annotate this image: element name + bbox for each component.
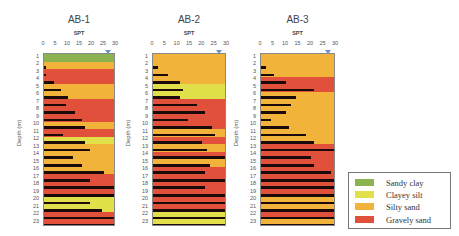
y-tick-label: 7 xyxy=(136,98,148,104)
x-tick-label: 25 xyxy=(319,40,325,46)
y-tick-label: 11 xyxy=(136,128,148,134)
x-tick-label: 15 xyxy=(76,40,82,46)
x-tick-label: 10 xyxy=(64,40,70,46)
y-tick-label: 16 xyxy=(27,165,39,171)
y-tick-label: 6 xyxy=(136,90,148,96)
x-tick-label: 5 xyxy=(53,40,56,46)
soil-layer-row xyxy=(261,219,334,226)
legend-label: Silty sand xyxy=(386,202,420,212)
y-tick-label: 16 xyxy=(244,165,256,171)
legend-item-clayey-silt: Clayey silt xyxy=(355,189,423,200)
y-tick-label: 23 xyxy=(27,218,39,224)
spt-bar xyxy=(153,224,226,226)
x-tick-label: 20 xyxy=(307,40,313,46)
y-tick-label: 17 xyxy=(136,173,148,179)
spt-bar xyxy=(261,224,335,226)
soil-layer-row xyxy=(153,219,225,226)
y-tick-label: 2 xyxy=(27,60,39,66)
legend-label: Sandy clay xyxy=(386,178,424,188)
x-tick-label: 5 xyxy=(271,40,274,46)
y-tick-label: 4 xyxy=(27,75,39,81)
y-tick-label: 3 xyxy=(136,68,148,74)
y-tick-label: 8 xyxy=(244,105,256,111)
y-tick-label: 15 xyxy=(244,158,256,164)
y-tick-label: 7 xyxy=(27,98,39,104)
y-tick-label: 5 xyxy=(27,83,39,89)
y-tick-label: 6 xyxy=(27,90,39,96)
y-tick-label: 3 xyxy=(27,68,39,74)
y-tick-label: 14 xyxy=(244,150,256,156)
x-tick-label: 10 xyxy=(174,40,180,46)
y-tick-label: 15 xyxy=(27,158,39,164)
legend-item-silty-sand: Silty sand xyxy=(355,201,420,212)
y-tick-label: 17 xyxy=(27,173,39,179)
y-tick-label: 2 xyxy=(244,60,256,66)
y-tick-label: 18 xyxy=(244,180,256,186)
y-tick-label: 4 xyxy=(136,75,148,81)
y-tick-label: 13 xyxy=(244,143,256,149)
y-tick-label: 11 xyxy=(27,128,39,134)
y-tick-label: 20 xyxy=(136,195,148,201)
y-tick-label: 11 xyxy=(244,128,256,134)
y-tick-label: 21 xyxy=(27,203,39,209)
x-tick-label: 0 xyxy=(150,40,153,46)
y-tick-label: 4 xyxy=(244,75,256,81)
legend-item-gravely-sand: Gravely sand xyxy=(355,214,431,225)
y-tick-label: 6 xyxy=(244,90,256,96)
y-tick-label: 14 xyxy=(27,150,39,156)
x-axis-title: SPT xyxy=(258,30,338,36)
y-tick-label: 8 xyxy=(27,105,39,111)
x-tick-label: 0 xyxy=(41,40,44,46)
y-tick-label: 18 xyxy=(27,180,39,186)
y-tick-label: 9 xyxy=(136,113,148,119)
y-tick-label: 3 xyxy=(244,68,256,74)
legend-label: Gravely sand xyxy=(386,215,431,225)
y-tick-label: 8 xyxy=(136,105,148,111)
y-tick-label: 20 xyxy=(27,195,39,201)
x-tick-label: 25 xyxy=(100,40,106,46)
plot-area xyxy=(43,53,115,226)
y-tick-label: 17 xyxy=(244,173,256,179)
y-tick-label: 1 xyxy=(136,53,148,59)
y-tick-label: 13 xyxy=(136,143,148,149)
x-tick-label: 20 xyxy=(198,40,204,46)
y-tick-label: 23 xyxy=(136,218,148,224)
y-axis-title: Depth (m) xyxy=(233,113,239,153)
water-level-icon xyxy=(105,50,111,54)
y-tick-label: 5 xyxy=(244,83,256,89)
x-tick-label: 30 xyxy=(223,40,229,46)
y-tick-label: 23 xyxy=(244,218,256,224)
y-tick-label: 1 xyxy=(27,53,39,59)
y-tick-label: 22 xyxy=(136,210,148,216)
x-tick-label: 0 xyxy=(258,40,261,46)
legend-swatch-sandy-clay xyxy=(355,179,374,186)
panel-title: AB-1 xyxy=(39,14,119,25)
y-tick-label: 19 xyxy=(27,188,39,194)
x-tick-label: 15 xyxy=(294,40,300,46)
y-tick-label: 2 xyxy=(136,60,148,66)
y-tick-label: 7 xyxy=(244,98,256,104)
panel-title: AB-2 xyxy=(149,14,229,25)
y-tick-label: 13 xyxy=(27,143,39,149)
x-tick-label: 5 xyxy=(163,40,166,46)
y-tick-label: 22 xyxy=(27,210,39,216)
y-tick-label: 19 xyxy=(244,188,256,194)
soil-layer-row xyxy=(44,219,114,226)
y-tick-label: 9 xyxy=(244,113,256,119)
x-axis-title: SPT xyxy=(149,30,229,36)
water-level-icon xyxy=(216,50,222,54)
x-tick-label: 25 xyxy=(211,40,217,46)
y-tick-label: 20 xyxy=(244,195,256,201)
y-tick-label: 22 xyxy=(244,210,256,216)
panel-title: AB-3 xyxy=(258,14,338,25)
y-tick-label: 10 xyxy=(27,120,39,126)
y-tick-label: 19 xyxy=(136,188,148,194)
y-tick-label: 21 xyxy=(136,203,148,209)
legend-swatch-clayey-silt xyxy=(355,191,374,198)
y-tick-label: 9 xyxy=(27,113,39,119)
y-axis-title: Depth (m) xyxy=(16,113,22,153)
y-tick-label: 10 xyxy=(136,120,148,126)
legend-label: Clayey silt xyxy=(386,190,423,200)
plot-area xyxy=(152,53,226,226)
x-axis-ticks: 051015202530 xyxy=(260,40,335,48)
